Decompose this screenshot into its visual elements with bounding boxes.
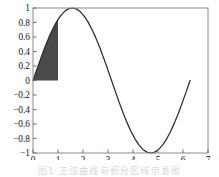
x-tick-label: 7 <box>206 155 211 161</box>
plot-area: 01234567 −1−0.8−0.6−0.4−0.200.20.40.60.8… <box>0 0 219 160</box>
y-tick-label: 0.2 <box>18 61 30 71</box>
y-tick-label: −0.8 <box>13 134 30 144</box>
y-tick-label: −1 <box>20 148 30 158</box>
y-tick-label: 0.4 <box>18 47 30 57</box>
y-tick-label: −0.6 <box>13 119 30 129</box>
x-tick-label: 3 <box>106 155 111 161</box>
x-tick-label: 1 <box>56 155 61 161</box>
y-tick-label: −0.4 <box>13 105 30 115</box>
y-tick-label: 0 <box>25 76 30 86</box>
x-tick-label: 2 <box>81 155 86 161</box>
y-tick-label: 0.8 <box>18 18 30 28</box>
x-tick-label: 4 <box>131 155 136 161</box>
y-tick-label: 1 <box>25 3 30 13</box>
x-tick-label: 5 <box>156 155 161 161</box>
y-tick-label: 0.6 <box>18 32 30 42</box>
figure-container: 01234567 −1−0.8−0.6−0.4−0.200.20.40.60.8… <box>0 0 219 177</box>
sine-plot-svg: 01234567 −1−0.8−0.6−0.4−0.200.20.40.60.8… <box>0 0 219 160</box>
plot-background <box>33 8 208 153</box>
x-tick-label: 6 <box>181 155 186 161</box>
y-axis-tick-labels: −1−0.8−0.6−0.4−0.200.20.40.60.81 <box>13 3 30 158</box>
x-tick-label: 0 <box>31 155 36 161</box>
x-axis-tick-labels: 01234567 <box>31 155 211 161</box>
y-tick-label: −0.2 <box>13 90 30 100</box>
figure-caption: 图1 正弦曲线与积分区域示意图 <box>0 166 219 177</box>
